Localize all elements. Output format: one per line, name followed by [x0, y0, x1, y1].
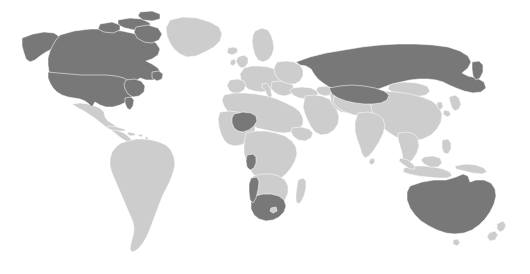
country-horn-of-africa [291, 127, 313, 141]
country-ireland [230, 59, 236, 66]
country-new-zealand-south [487, 231, 498, 241]
country-australia[interactable] [407, 174, 496, 234]
region-florida[interactable] [125, 97, 134, 110]
country-mexico [72, 103, 133, 143]
island-tasmania [453, 239, 460, 246]
country-greenland [166, 17, 222, 57]
country-new-zealand [497, 221, 506, 232]
country-borneo [421, 156, 442, 167]
country-sri-lanka [369, 158, 375, 165]
country-japan [449, 95, 461, 111]
country-japan-south [443, 110, 451, 117]
country-puerto-rico [138, 134, 143, 137]
region-kamchatka[interactable] [472, 61, 483, 80]
world-map [0, 0, 530, 274]
country-hispaniola [127, 132, 136, 136]
country-scandinavia [252, 28, 274, 62]
world-map-svg [0, 0, 530, 274]
country-madagascar [296, 178, 306, 204]
country-united-states[interactable] [48, 72, 134, 107]
country-new-guinea [455, 164, 487, 174]
country-iceland [227, 47, 238, 55]
country-british-isles [236, 55, 248, 68]
country-south-america [110, 139, 175, 252]
country-cuba [107, 126, 126, 131]
country-philippines [442, 139, 451, 154]
country-india [355, 112, 385, 158]
country-iberia [227, 79, 246, 93]
